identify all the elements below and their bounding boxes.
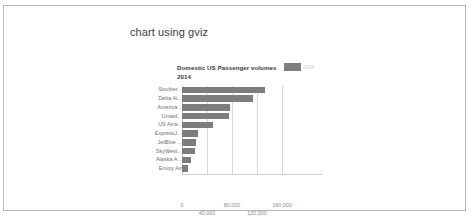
bar-row: United... [144,112,329,121]
category-label: America... [140,104,182,110]
bar[interactable] [182,87,265,94]
page-frame: chart using gviz Domestic US Passenger v… [3,5,466,211]
bar-row: SkyWest... [144,147,329,156]
legend-label: 2014 [303,64,314,70]
bar-row: Envoy Air [144,165,329,174]
x-axis-tick-label: 40,000 [199,210,216,216]
plot-area: Souther...Delta Ai...America...United...… [144,86,329,176]
chart-title-line-2: 2014 [177,73,191,80]
bar[interactable] [182,165,188,172]
category-label: Delta Ai... [140,95,182,101]
bar[interactable] [182,130,198,137]
x-axis-tick-label: 120,000 [247,210,267,216]
category-label: Envoy Air [140,165,182,171]
bar-row: Souther... [144,86,329,95]
category-label: JetBlue ... [140,139,182,145]
bar-row: Alaska A... [144,156,329,165]
bar-row: JetBlue ... [144,139,329,148]
bar[interactable] [182,95,253,102]
category-label: Alaska A... [140,156,182,162]
x-axis-baseline [182,174,322,175]
bar[interactable] [182,148,195,155]
x-axis-tick-label: 0 [181,202,184,208]
bar[interactable] [182,104,230,111]
category-label: United... [140,113,182,119]
bar[interactable] [182,113,229,120]
bar[interactable] [182,157,191,164]
bar-row: America... [144,104,329,113]
chart-container: Domestic US Passenger volumes 2014 2014 … [144,61,329,196]
bar[interactable] [182,122,213,129]
page-title: chart using gviz [130,26,208,38]
legend-color-swatch [284,63,301,71]
chart-legend: 2014 [284,63,316,72]
bar[interactable] [182,139,196,146]
chart-title-line-1: Domestic US Passenger volumes [177,64,276,71]
bar-row: ExpressJ... [144,130,329,139]
x-axis-tick-label: 160,000 [272,202,292,208]
x-axis-tick-label: 80,000 [224,202,241,208]
bar-row: US Airw... [144,121,329,130]
category-label: ExpressJ... [140,130,182,136]
category-label: SkyWest... [140,148,182,154]
category-label: US Airw... [140,121,182,127]
bar-row: Delta Ai... [144,95,329,104]
category-label: Souther... [140,86,182,92]
